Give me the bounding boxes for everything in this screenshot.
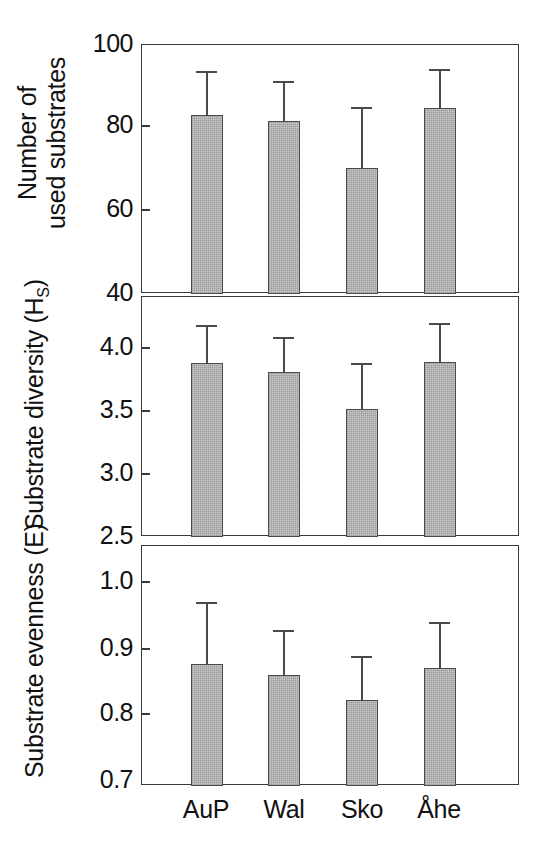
axis-title-panel1-line2: used substrates [42,23,71,263]
error-stem-ahe-panel2 [439,323,441,363]
ytick-mark-1-0-panel3 [141,581,150,583]
axis-title-panel2-subscript: S [35,287,52,297]
error-cap-wal-panel2 [273,337,294,339]
bar-wal-panel2 [268,372,300,537]
ytick-label-2-5-panel2: 2.5 [41,521,133,550]
bar-ahe-panel3 [424,668,456,786]
error-stem-aup-panel3 [206,602,208,665]
axis-title-panel1: Number of used substrates [13,23,71,263]
error-stem-wal-panel2 [283,337,285,373]
axis-title-panel1-line1: Number of [13,23,42,263]
plot-area-panel2 [142,297,518,535]
ytick-label-0-9-panel3: 0.9 [41,633,133,662]
ytick-label-4-0-panel2: 4.0 [41,332,133,361]
error-stem-aup-panel1 [206,71,208,116]
axis-title-panel2: Substrate diversity (HS) [20,279,53,530]
error-cap-ahe-panel2 [429,323,450,325]
xtick-label-ahe: Åhe [383,795,495,824]
ytick-label-3-0-panel2: 3.0 [41,458,133,487]
error-stem-sko-panel1 [361,107,363,169]
ytick-label-3-5-panel2: 3.5 [41,395,133,424]
ytick-label-0-7-panel3: 0.7 [41,765,133,794]
figure-container: 100 80 60 40 Number of used substrates [0,0,538,850]
error-stem-ahe-panel1 [439,69,441,109]
bar-wal-panel1 [268,121,300,294]
plot-area-panel3 [142,546,518,784]
error-stem-aup-panel2 [206,325,208,364]
bar-aup-panel1 [191,115,223,294]
ytick-label-0-8-panel3: 0.8 [41,698,133,727]
bar-wal-panel3 [268,675,300,786]
bar-sko-panel3 [346,700,378,786]
error-stem-ahe-panel3 [439,622,441,669]
bar-ahe-panel2 [424,362,456,537]
bar-ahe-panel1 [424,108,456,294]
bar-aup-panel2 [191,363,223,537]
error-stem-wal-panel1 [283,81,285,122]
error-cap-sko-panel1 [351,107,372,109]
ytick-mark-0-8-panel3 [141,713,150,715]
plot-area-panel1 [142,45,518,292]
ytick-label-1-0-panel3: 1.0 [41,566,133,595]
bar-sko-panel2 [346,409,378,537]
bar-aup-panel3 [191,664,223,786]
panel-substrate-diversity [141,296,519,536]
error-stem-sko-panel2 [361,363,363,410]
error-cap-aup-panel2 [196,325,217,327]
panel-number-of-used-substrates [141,44,519,293]
error-cap-aup-panel3 [196,602,217,604]
error-cap-wal-panel3 [273,630,294,632]
axis-title-panel3: Substrate evenness (E) [20,523,49,778]
ytick-mark-35-panel2 [141,410,150,412]
ytick-mark-0-9-panel3 [141,648,150,650]
ytick-mark-30-panel2 [141,473,150,475]
panel-substrate-evenness [141,545,519,785]
error-cap-aup-panel1 [196,71,217,73]
axis-title-panel2-close: ) [20,279,48,287]
error-cap-ahe-panel3 [429,622,450,624]
ytick-label-40-panel1: 40 [41,278,133,307]
axis-title-panel2-main: Substrate diversity (H [20,298,48,530]
error-cap-sko-panel2 [351,363,372,365]
error-cap-wal-panel1 [273,81,294,83]
ytick-mark-80-panel1 [141,125,150,127]
error-cap-ahe-panel1 [429,69,450,71]
error-stem-wal-panel3 [283,630,285,676]
error-cap-sko-panel3 [351,656,372,658]
error-stem-sko-panel3 [361,656,363,701]
bar-sko-panel1 [346,168,378,294]
ytick-mark-60-panel1 [141,209,150,211]
ytick-mark-40-panel2 [141,347,150,349]
